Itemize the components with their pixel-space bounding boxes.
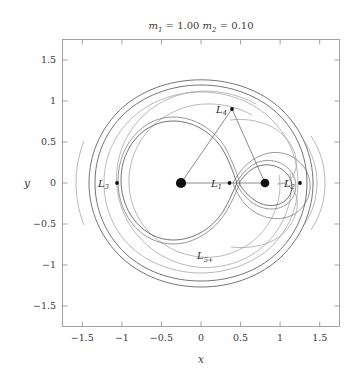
title-m2-symbol: m	[203, 20, 212, 31]
y-tick-label: 0.5	[41, 136, 56, 147]
lagrange-point-L2-marker	[298, 181, 302, 185]
lagrange-point-L4-marker	[230, 107, 234, 111]
x-tick-label: −1.5	[71, 332, 94, 343]
y-tick-labels: 1.5 1 0.5 0 −0.5 −1 −1.5	[33, 54, 56, 311]
L1-subscript: 1	[218, 183, 222, 191]
x-tick-label: 0.5	[233, 332, 248, 343]
L5-subscript: 5+	[204, 256, 214, 264]
x-tick-labels: −1.5 −1 −0.5 0 0.5 1 1.5	[71, 332, 327, 343]
contour-L5-lobe	[231, 183, 297, 248]
L3-subscript: 3	[105, 183, 109, 191]
body-m2-marker	[261, 179, 270, 188]
lagrange-point-L2-label: L2	[283, 178, 295, 192]
x-axis-title: x	[198, 353, 204, 365]
x-tick-label: 1.5	[312, 332, 327, 343]
lagrange-point-markers	[115, 107, 302, 185]
lagrange-point-L5-label: L5+	[196, 250, 213, 264]
contour-L4-lobe	[230, 119, 296, 184]
figure-container: m1 = 1.00 m2 = 0.10	[0, 0, 358, 377]
x-tick-label: −1	[115, 332, 129, 343]
plot-title-text: m1 = 1.00 m2 = 0.10	[148, 20, 253, 34]
y-tick-label: 1.5	[41, 54, 56, 65]
three-body-zero-velocity-plot: m1 = 1.00 m2 = 0.10	[0, 0, 358, 377]
y-axis-title: y	[23, 177, 31, 189]
contour-left-arc-1	[76, 141, 84, 225]
connector-lines	[181, 109, 265, 183]
x-tick-label: −0.5	[150, 332, 173, 343]
L2-subscript: 2	[290, 183, 295, 191]
L4-subscript: 4	[222, 109, 227, 117]
title-m1-symbol: m	[148, 20, 157, 31]
y-tick-label: −1.5	[33, 300, 56, 311]
y-tick-label: 1	[50, 95, 56, 106]
y-tick-label: −1	[42, 259, 56, 270]
lagrange-point-L3-label: L3	[97, 178, 109, 192]
x-tick-label: 1	[277, 332, 283, 343]
x-tick-label: 0	[198, 332, 204, 343]
body-m1-marker	[176, 178, 186, 188]
plot-title: m1 = 1.00 m2 = 0.10	[148, 20, 253, 34]
y-tick-label: −0.5	[33, 218, 56, 229]
y-tick-label: 0	[50, 177, 56, 188]
contour-right-arc-1	[304, 141, 317, 225]
lagrange-point-L1-marker	[228, 181, 232, 185]
lagrange-point-L1-label: L1	[210, 178, 222, 192]
lagrange-point-L3-marker	[115, 181, 119, 185]
